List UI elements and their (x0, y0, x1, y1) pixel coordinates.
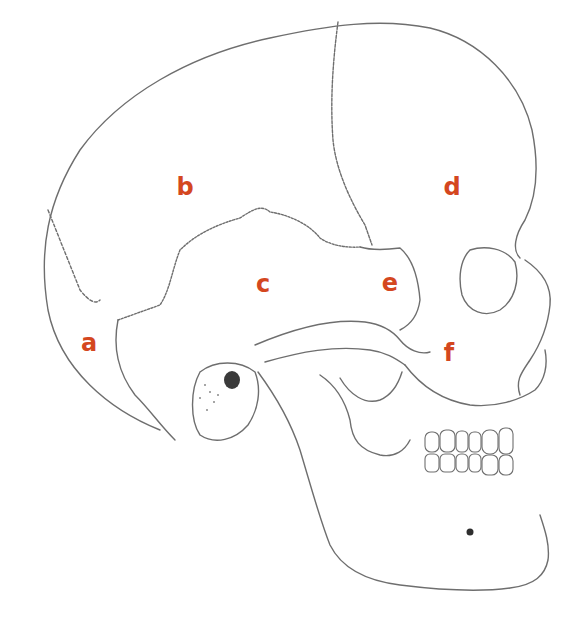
label-a: a (81, 331, 97, 355)
coronal-suture (332, 22, 372, 245)
shading-dots (199, 384, 219, 411)
zygomatic-arch-lower (265, 348, 405, 365)
cranium-outline (44, 23, 536, 430)
skull-diagram: a b c d e f (0, 0, 577, 635)
orbit-outline (460, 248, 517, 314)
label-d: d (443, 175, 460, 199)
lambdoid-suture (48, 210, 100, 302)
label-f: f (444, 341, 454, 365)
mastoid-outline (193, 363, 259, 440)
nasal-outline (518, 260, 550, 395)
mandible-outline (258, 372, 548, 590)
squamous-suture (118, 208, 360, 320)
label-b: b (176, 175, 193, 199)
occipital-border (116, 320, 175, 440)
external-acoustic-meatus (224, 371, 240, 389)
mandibular-notch (340, 372, 402, 401)
teeth (425, 428, 513, 475)
mental-foramen (467, 529, 474, 536)
skull-illustration (0, 0, 577, 635)
label-c: c (256, 272, 270, 296)
maxilla-outline (405, 350, 546, 406)
label-e: e (382, 271, 398, 295)
mandible-ramus (320, 375, 410, 456)
